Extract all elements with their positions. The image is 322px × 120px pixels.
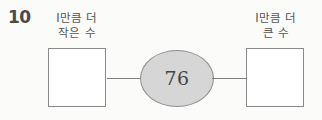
connector-line-right bbox=[212, 78, 248, 79]
label-left-line-1: I만큼 더 bbox=[56, 11, 98, 25]
answer-box-left[interactable] bbox=[48, 48, 106, 107]
center-number-ellipse: 76 bbox=[140, 50, 214, 107]
problem-number: 10 bbox=[8, 9, 31, 26]
worksheet-problem: 10 I만큼 더 작은 수 I만큼 더 큰 수 76 bbox=[0, 0, 322, 120]
label-right-line-2: 큰 수 bbox=[233, 26, 319, 41]
center-number-value: 76 bbox=[164, 69, 189, 89]
connector-line-left bbox=[107, 78, 142, 79]
label-left-smaller-number: I만큼 더 작은 수 bbox=[34, 11, 120, 41]
label-right-larger-number: I만큼 더 큰 수 bbox=[233, 11, 319, 41]
label-right-line-1: I만큼 더 bbox=[255, 11, 297, 25]
answer-box-right[interactable] bbox=[246, 48, 304, 107]
label-left-line-2: 작은 수 bbox=[34, 26, 120, 41]
